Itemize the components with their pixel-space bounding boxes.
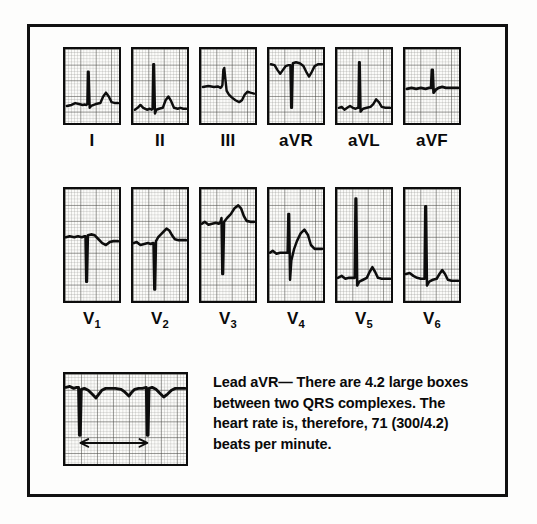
- lead-i-panel: [63, 47, 121, 125]
- rhythm-strip-avr-panel: [63, 372, 188, 466]
- lead-iii-label: III: [199, 131, 257, 151]
- caption-line-3: heart rate is, therefore, 71 (300/4.2): [213, 413, 478, 434]
- lead-i-label: I: [63, 131, 121, 151]
- caption-line-4: beats per minute.: [213, 434, 478, 455]
- lead-v1-label: V1: [63, 309, 121, 329]
- lead-cell-iii: III: [199, 47, 257, 125]
- lead-cell-v1: V1: [63, 187, 121, 303]
- lead-ii-label: II: [131, 131, 189, 151]
- lead-cell-v4: V4: [267, 187, 325, 303]
- lead-cell-ii: II: [131, 47, 189, 125]
- lead-v2-panel: [131, 187, 189, 303]
- caption-line-1: Lead aVR— There are 4.2 large boxes: [213, 372, 478, 393]
- rhythm-and-caption-section: Lead aVR— There are 4.2 large boxes betw…: [30, 368, 505, 488]
- lead-v1-panel: [63, 187, 121, 303]
- lead-v4-panel: [267, 187, 325, 303]
- lead-v6-label: V6: [403, 309, 461, 329]
- lead-cell-avf: aVF: [403, 47, 461, 125]
- lead-avf-panel: [403, 47, 461, 125]
- lead-avr-label: aVR: [267, 131, 325, 151]
- caption-line-2: between two QRS complexes. The: [213, 393, 478, 414]
- lead-cell-i: I: [63, 47, 121, 125]
- lead-iii-panel: [199, 47, 257, 125]
- lead-cell-v2: V2: [131, 187, 189, 303]
- caption-text: Lead aVR— There are 4.2 large boxes betw…: [213, 372, 478, 454]
- lead-v4-label: V4: [267, 309, 325, 329]
- lead-v5-label: V5: [335, 309, 393, 329]
- lead-cell-v6: V6: [403, 187, 461, 303]
- lead-v5-panel: [335, 187, 393, 303]
- lead-avf-label: aVF: [403, 131, 461, 151]
- lead-v3-panel: [199, 187, 257, 303]
- lead-v2-label: V2: [131, 309, 189, 329]
- lead-avr-panel: [267, 47, 325, 125]
- lead-ii-panel: [131, 47, 189, 125]
- lead-v6-panel: [403, 187, 461, 303]
- lead-cell-v3: V3: [199, 187, 257, 303]
- ecg-figure-frame: I II: [27, 24, 508, 497]
- lead-v3-label: V3: [199, 309, 257, 329]
- lead-avl-label: aVL: [335, 131, 393, 151]
- lead-cell-v5: V5: [335, 187, 393, 303]
- lead-cell-avl: aVL: [335, 47, 393, 125]
- lead-cell-avr: aVR: [267, 47, 325, 125]
- lead-avl-panel: [335, 47, 393, 125]
